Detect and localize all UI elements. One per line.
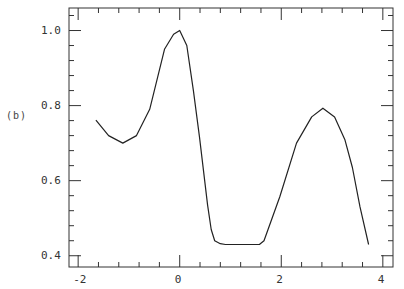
y-tick-label: 0.6 xyxy=(41,175,61,187)
y-tick-label: 0.4 xyxy=(41,250,61,262)
y-tick-label: 0.8 xyxy=(41,100,61,112)
x-tick-label: 2 xyxy=(276,274,283,286)
line-chart xyxy=(0,0,404,289)
panel-label: (b) xyxy=(6,110,27,121)
x-tick-label: 4 xyxy=(378,274,385,286)
x-tick-label: -2 xyxy=(73,274,86,286)
data-line xyxy=(96,31,369,245)
x-tick-label: 0 xyxy=(175,274,182,286)
y-tick-label: 1.0 xyxy=(41,25,61,37)
